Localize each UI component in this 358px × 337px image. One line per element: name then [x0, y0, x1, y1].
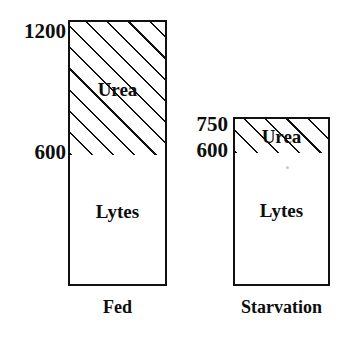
- bar-starvation-segment-lytes: Lytes: [235, 153, 328, 284]
- bar-starvation-segment-lytes-label: Lytes: [235, 201, 328, 220]
- bar-fed-segment-lytes: Lytes: [70, 155, 165, 284]
- bar-starvation: Urea Lytes: [233, 117, 330, 286]
- bar-fed-segment-urea-label: Urea: [70, 80, 165, 99]
- bar-starvation-segment-urea: Urea: [235, 119, 328, 155]
- bar-fed: Urea Lytes: [68, 20, 167, 286]
- bar-fed-segment-lytes-label: Lytes: [70, 202, 165, 221]
- value-marker-fed-top: 1200: [8, 21, 66, 42]
- bar-fed-segment-urea: Urea: [70, 22, 165, 157]
- category-label-starvation: Starvation: [222, 298, 341, 316]
- bar-starvation-urea-text: Urea: [261, 127, 303, 146]
- scan-artifact-speck: [286, 166, 289, 169]
- value-marker-starvation-top: 750: [182, 114, 228, 135]
- bar-starvation-segment-urea-label: Urea: [235, 127, 328, 146]
- bar-fed-lytes-text: Lytes: [95, 202, 140, 221]
- value-marker-starvation-mid: 600: [182, 140, 228, 161]
- category-label-fed: Fed: [68, 298, 167, 316]
- bar-fed-urea-text: Urea: [97, 80, 139, 99]
- bar-starvation-lytes-text: Lytes: [259, 201, 304, 220]
- value-marker-fed-mid: 600: [8, 142, 66, 163]
- chart-canvas: 1200 600 750 600 Urea Lytes Urea Lytes F…: [0, 0, 358, 337]
